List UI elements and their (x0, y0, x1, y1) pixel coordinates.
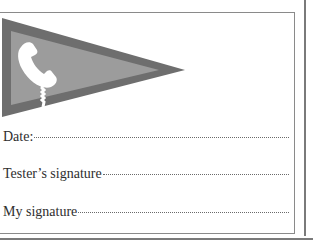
my-signature-label: My signature (3, 204, 77, 220)
cropped-heading-remnant: · · · · · · · · (92, 0, 157, 7)
date-field[interactable]: Date: (3, 129, 289, 145)
certificate-card: Date: Tester’s signature My signature (0, 12, 295, 234)
my-signature-field[interactable]: My signature (3, 204, 289, 220)
my-signature-dotted-line[interactable] (78, 211, 289, 213)
page-border-bottom (0, 238, 313, 240)
date-dotted-line[interactable] (34, 136, 289, 138)
page-border-right (304, 0, 306, 236)
tester-signature-field[interactable]: Tester’s signature (3, 166, 289, 182)
date-label: Date: (3, 129, 33, 145)
tester-signature-label: Tester’s signature (3, 166, 102, 182)
tester-signature-dotted-line[interactable] (103, 173, 289, 175)
pennant-flag (0, 17, 189, 121)
